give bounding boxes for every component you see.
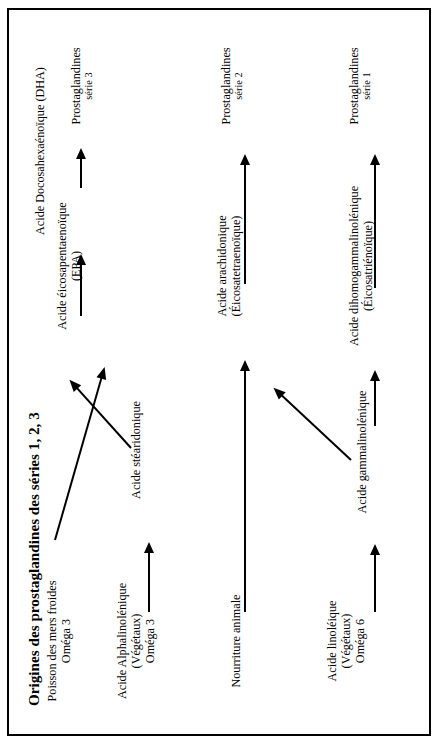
node-line: Acide arachidonique [215,178,229,354]
figure-border: Origines des prostaglandines des séries … [7,8,431,736]
arrow-shaft [244,165,246,284]
arrow-shaft [80,159,82,188]
node-line: Nourriture animale [229,566,243,716]
node-line: Prostaglandines [69,24,83,148]
node-line: Prostaglandines [219,24,233,148]
arrow-shaft [280,394,352,461]
arrow-shaft [54,376,103,540]
node-line: Poisson des mers froides [45,556,59,726]
node-acide-arachidonique: Acide arachidonique (Éicosatetraenoïque) [215,178,243,354]
arrow-head [76,254,86,265]
node-line: Acide Alphalinolénique [115,560,129,722]
rotated-diagram-canvas: Origines des prostaglandines des séries … [7,8,431,736]
node-line: (Végétaux) [129,560,143,722]
node-line: Prostaglandines [347,24,361,148]
arrow-head [370,154,380,165]
arrow-head [240,154,250,165]
arrow-shaft [374,555,376,612]
arrow-shaft [374,381,376,426]
node-acide-dihomogammalinolenique: Acide dihomogammalinolénique (Éicosatrié… [347,158,375,374]
node-line: Acide linoléique [325,566,339,716]
node-line: série 2 [233,24,245,148]
arrow-shaft [244,371,246,612]
node-line: série 3 [83,24,95,148]
node-acide-docosahexaenoique: Acide Docosahexaénoïque (DHA) [33,36,47,266]
node-nourriture-animale: Nourriture animale [229,566,243,716]
node-line: Acide Docosahexaénoïque (DHA) [33,36,47,266]
node-line: Acide dihomogammalinolénique [347,158,361,374]
node-prostaglandines-serie-2: Prostaglandines série 2 [219,24,245,148]
arrow-head [370,370,380,381]
node-acide-alphalinolenique: Acide Alphalinolénique (Végétaux) Oméga … [115,560,157,722]
node-prostaglandines-serie-1: Prostaglandines série 1 [347,24,373,148]
node-line: Oméga 6 [353,566,367,716]
arrow-head [76,148,86,159]
arrow-shaft [80,265,82,316]
node-line: Acide éicosapentaenoïque [55,176,69,356]
page-title: Origines des prostaglandines des séries … [25,412,43,706]
node-prostaglandines-serie-3: Prostaglandines série 3 [69,24,95,148]
node-acide-linoleique: Acide linoléique (Végétaux) Oméga 6 [325,566,367,716]
node-line: Acide stéaridonique [129,370,143,530]
arrow-head [96,365,109,379]
node-acide-stearidonique: Acide stéaridonique [129,370,143,530]
node-line: Acide gammalinolénique [355,368,369,536]
arrow-head [240,360,250,371]
arrow-shaft [374,165,376,288]
arrow-gammalinolenique-to-arachidonique [272,386,351,460]
node-line: Oméga 3 [143,560,157,722]
arrow-shaft [148,553,150,612]
node-line: série 1 [361,24,373,148]
node-line: (Végétaux) [339,566,353,716]
node-acide-gammalinolenique: Acide gammalinolénique [355,368,369,536]
node-line: (Éicosatetraenoïque) [229,178,243,354]
arrow-head [144,542,154,553]
node-poisson-mers-froides: Poisson des mers froides Oméga 3 [45,556,73,726]
arrow-head [370,544,380,555]
node-line: Oméga 3 [59,556,73,726]
figure-page: Origines des prostaglandines des séries … [0,0,442,756]
